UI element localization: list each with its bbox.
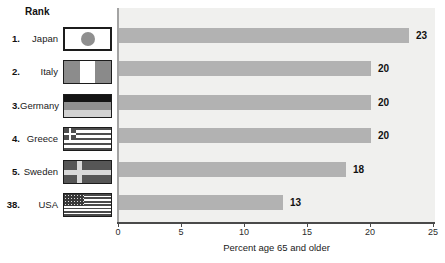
bar: [119, 61, 371, 76]
country-row: 4. Greece: [0, 127, 118, 151]
italy-flag-icon: [63, 60, 112, 84]
rank-column-header: Rank: [25, 6, 49, 17]
x-tick-label: 0: [106, 227, 130, 237]
greece-flag-icon: [63, 127, 112, 151]
country-label: Sweden: [20, 160, 58, 184]
bar: [119, 162, 346, 177]
bar-value-label: 18: [353, 164, 364, 175]
x-tick-label: 5: [169, 227, 193, 237]
x-tick-label: 10: [232, 227, 256, 237]
sweden-cross-horizontal: [64, 170, 111, 175]
bar-value-label: 20: [378, 130, 389, 141]
country-label: Germany: [20, 94, 58, 118]
bar: [119, 28, 409, 43]
country-label: Greece: [20, 127, 58, 151]
bar: [119, 95, 371, 110]
sweden-cross-vertical: [77, 161, 82, 183]
rank-label: 5.: [2, 160, 20, 184]
bar-value-label: 23: [416, 30, 427, 41]
x-tick-label: 20: [358, 227, 382, 237]
sweden-flag-icon: [63, 160, 112, 184]
country-row: 1. Japan: [0, 27, 118, 51]
x-tick-label: 15: [295, 227, 319, 237]
country-label: Japan: [20, 27, 58, 51]
bar-value-label: 20: [378, 63, 389, 74]
japan-flag-icon: [63, 27, 112, 51]
x-axis-title: Percent age 65 and older: [118, 242, 435, 253]
country-row: 5. Sweden: [0, 160, 118, 184]
rank-label: 38.: [2, 193, 20, 217]
bar: [119, 195, 283, 210]
usa-flag-icon: [63, 193, 112, 217]
x-tick-label: 25: [421, 227, 445, 237]
country-label: Italy: [20, 60, 58, 84]
greece-cross-canton: [64, 128, 76, 140]
germany-flag-icon: [63, 94, 112, 118]
country-row: 3. Germany: [0, 94, 118, 118]
japan-sun-disc: [81, 32, 95, 46]
rank-label: 4.: [2, 127, 20, 151]
country-label: USA: [20, 193, 58, 217]
bar-value-label: 13: [290, 197, 301, 208]
age-65-bar-chart: Rank 1. Japan 2. Italy 3. Germany 4. Gre…: [0, 0, 445, 263]
rank-label: 1.: [2, 27, 20, 51]
bar-value-label: 20: [378, 97, 389, 108]
rank-label: 2.: [2, 60, 20, 84]
rank-label: 3.: [2, 94, 20, 118]
x-axis-line: [117, 222, 435, 224]
country-row: 38. USA: [0, 193, 118, 217]
usa-star-canton: [64, 194, 84, 206]
country-row: 2. Italy: [0, 60, 118, 84]
bar: [119, 128, 371, 143]
